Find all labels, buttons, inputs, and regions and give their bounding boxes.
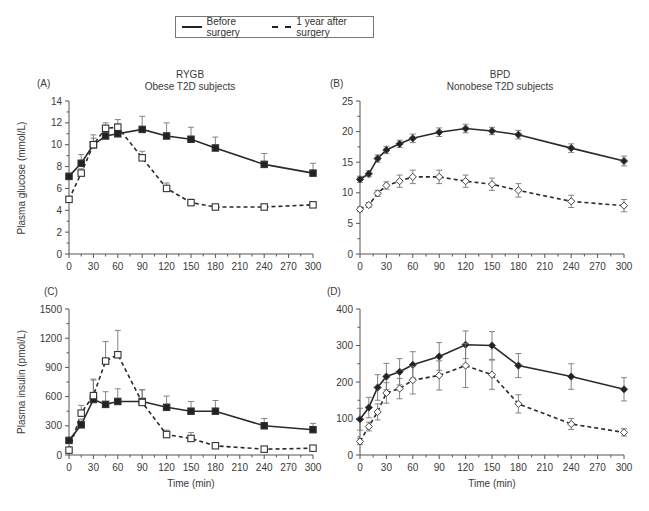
- data-point-marker: [139, 155, 145, 161]
- data-point-marker: [365, 423, 372, 430]
- data-point-marker: [90, 142, 96, 148]
- data-point-marker: [620, 386, 627, 393]
- series-before-surgery: [356, 124, 627, 183]
- data-point-marker: [515, 131, 522, 138]
- data-point-marker: [212, 443, 218, 449]
- axes: 024681012140306090120150180210240270300: [51, 96, 322, 273]
- x-tick-label: 210: [536, 462, 553, 473]
- y-tick-label: 0: [347, 249, 353, 260]
- x-axis-label-left: Time (min): [167, 478, 214, 489]
- x-tick-label: 150: [183, 261, 200, 272]
- data-point-marker: [102, 358, 108, 364]
- y-tick-label: 200: [336, 377, 353, 388]
- y-tick-label: 100: [336, 413, 353, 424]
- data-point-marker: [365, 170, 372, 177]
- data-point-marker: [383, 389, 390, 396]
- data-point-marker: [139, 126, 145, 132]
- x-axis-label-right: Time (min): [468, 478, 515, 489]
- data-point-marker: [436, 372, 443, 379]
- x-tick-label: 240: [563, 462, 580, 473]
- y-tick-label: 1200: [40, 333, 63, 344]
- data-point-marker: [102, 125, 108, 131]
- data-point-marker: [310, 426, 316, 432]
- y-tick-label: 2: [56, 227, 62, 238]
- y-tick-label: 0: [56, 450, 62, 461]
- y-tick-label: 400: [336, 304, 353, 315]
- data-point-marker: [488, 127, 495, 134]
- x-tick-label: 300: [616, 462, 633, 473]
- data-point-marker: [261, 204, 267, 210]
- figure-canvas: 024681012140306090120150180210240270300 …: [0, 0, 649, 511]
- x-tick-label: 90: [137, 462, 149, 473]
- x-tick-label: 270: [280, 462, 297, 473]
- data-point-marker: [409, 173, 416, 180]
- x-tick-label: 60: [407, 462, 419, 473]
- data-point-marker: [396, 178, 403, 185]
- y-axis-label-glucose: Plasma glucose (mmol/L): [16, 122, 27, 235]
- x-tick-label: 30: [381, 261, 393, 272]
- x-tick-label: 30: [381, 462, 393, 473]
- data-point-marker: [115, 352, 121, 358]
- x-tick-label: 300: [305, 462, 322, 473]
- data-point-marker: [488, 181, 495, 188]
- x-tick-label: 90: [434, 261, 446, 272]
- data-point-marker: [374, 190, 381, 197]
- y-tick-label: 12: [51, 117, 63, 128]
- x-tick-label: 270: [280, 261, 297, 272]
- y-tick-label: 900: [45, 362, 62, 373]
- series-after-surgery: [356, 170, 627, 213]
- data-point-marker: [163, 185, 169, 191]
- x-tick-label: 60: [112, 261, 124, 272]
- data-point-marker: [436, 129, 443, 136]
- panel-a-glucose-rygb: 024681012140306090120150180210240270300: [51, 96, 322, 273]
- y-tick-label: 0: [347, 450, 353, 461]
- data-point-marker: [66, 447, 72, 453]
- data-point-marker: [139, 399, 145, 405]
- data-point-marker: [396, 368, 403, 375]
- x-tick-label: 300: [305, 261, 322, 272]
- data-point-marker: [163, 404, 169, 410]
- y-tick-label: 600: [45, 391, 62, 402]
- y-tick-label: 300: [45, 420, 62, 431]
- x-tick-label: 120: [158, 462, 175, 473]
- data-point-marker: [620, 429, 627, 436]
- data-point-marker: [568, 373, 575, 380]
- data-point-marker: [188, 136, 194, 142]
- data-point-marker: [115, 131, 121, 137]
- x-tick-label: 300: [616, 261, 633, 272]
- data-point-marker: [163, 133, 169, 139]
- y-tick-label: 1500: [40, 304, 63, 315]
- x-tick-label: 210: [231, 261, 248, 272]
- data-point-marker: [568, 145, 575, 152]
- y-tick-label: 8: [56, 161, 62, 172]
- x-tick-label: 90: [434, 462, 446, 473]
- data-point-marker: [115, 124, 121, 130]
- data-point-marker: [66, 173, 72, 179]
- data-point-marker: [261, 446, 267, 452]
- x-tick-label: 150: [484, 462, 501, 473]
- data-point-marker: [620, 202, 627, 209]
- x-tick-label: 0: [66, 462, 72, 473]
- data-point-marker: [78, 160, 84, 166]
- data-point-marker: [163, 431, 169, 437]
- data-point-marker: [261, 161, 267, 167]
- data-point-marker: [374, 408, 381, 415]
- data-point-marker: [462, 125, 469, 132]
- data-point-marker: [66, 196, 72, 202]
- data-point-marker: [188, 435, 194, 441]
- x-tick-label: 210: [231, 462, 248, 473]
- data-point-marker: [261, 423, 267, 429]
- data-point-marker: [620, 157, 627, 164]
- data-point-marker: [78, 170, 84, 176]
- y-tick-label: 25: [342, 96, 354, 107]
- y-tick-label: 15: [342, 157, 354, 168]
- y-tick-label: 10: [342, 187, 354, 198]
- x-tick-label: 30: [88, 462, 100, 473]
- panel-b-glucose-bpd: 05101520250306090120150180210240270300: [342, 96, 633, 273]
- data-point-marker: [436, 173, 443, 180]
- x-tick-label: 240: [256, 261, 273, 272]
- data-point-marker: [115, 398, 121, 404]
- x-tick-label: 180: [207, 462, 224, 473]
- x-tick-label: 0: [66, 261, 72, 272]
- x-tick-label: 120: [457, 261, 474, 272]
